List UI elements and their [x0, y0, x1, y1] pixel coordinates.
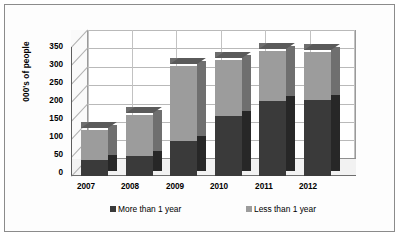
x-tick-2008: 2008 [108, 182, 152, 191]
bar-2009[interactable] [170, 30, 197, 176]
bar-segment-more-than-1-year [126, 156, 153, 176]
y-tick-350: 350 [37, 43, 63, 51]
chart-legend: More than 1 year Less than 1 year [5, 204, 396, 220]
x-tick-2011: 2011 [242, 182, 286, 191]
bar-2011[interactable] [259, 30, 286, 176]
bar-segment-more-than-1-year [259, 101, 286, 176]
y-tick-300: 300 [37, 61, 63, 69]
bar-2012[interactable] [304, 30, 331, 176]
chart-plot-area: 000's of people 350 300 250 200 150 100 … [5, 5, 396, 233]
y-tick-150: 150 [37, 115, 63, 123]
legend-item-more-than-1-year[interactable]: More than 1 year [110, 204, 181, 214]
bar-2010[interactable] [215, 30, 242, 176]
y-tick-50: 50 [37, 151, 63, 159]
x-tick-2012: 2012 [286, 182, 330, 191]
bar-segment-more-than-1-year [81, 160, 108, 176]
chart-frame: 000's of people 350 300 250 200 150 100 … [4, 4, 395, 232]
bar-2008[interactable] [126, 30, 153, 176]
bar-2007[interactable] [81, 30, 108, 176]
y-tick-200: 200 [37, 97, 63, 105]
plot-cube [71, 30, 356, 176]
legend-label-more-than-1-year: More than 1 year [118, 204, 181, 214]
bar-segment-more-than-1-year [170, 141, 197, 176]
y-axis-title: 000's of people [22, 27, 31, 117]
y-axis-line [71, 47, 72, 176]
x-tick-2007: 2007 [64, 182, 108, 191]
y-tick-250: 250 [37, 79, 63, 87]
legend-swatch-icon-dark [110, 206, 116, 212]
legend-label-less-than-1-year: Less than 1 year [254, 204, 316, 214]
x-tick-2010: 2010 [197, 182, 241, 191]
y-tick-100: 100 [37, 133, 63, 141]
y-tick-0: 0 [37, 169, 63, 177]
legend-item-less-than-1-year[interactable]: Less than 1 year [246, 204, 316, 214]
legend-swatch-icon-light [246, 206, 252, 212]
bar-segment-more-than-1-year [215, 116, 242, 176]
bar-segment-more-than-1-year [304, 100, 331, 176]
x-tick-2009: 2009 [153, 182, 197, 191]
